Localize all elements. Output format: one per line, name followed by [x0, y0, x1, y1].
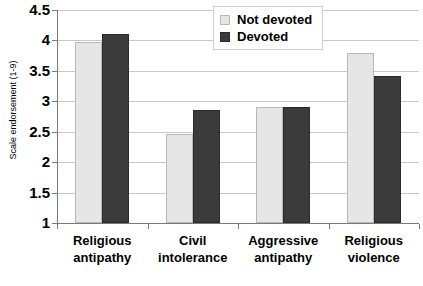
legend-item: Not devoted: [220, 11, 312, 28]
y-tick-label: 4.5: [8, 2, 50, 17]
x-tick-mark: [238, 224, 239, 229]
legend-label: Not devoted: [237, 12, 312, 27]
legend-label: Devoted: [237, 29, 288, 44]
legend-swatch-devoted-icon: [220, 32, 230, 42]
bar-devoted: [193, 110, 220, 223]
legend-item: Devoted: [220, 28, 312, 45]
x-tick-mark: [329, 224, 330, 229]
x-axis-category-label: Religiousviolence: [317, 232, 423, 266]
category-label-line: Religious: [317, 232, 423, 249]
legend: Not devoted Devoted: [213, 6, 323, 50]
y-tick-label: 4: [8, 32, 50, 47]
bar-not-devoted: [75, 42, 102, 223]
y-tick-label: 3: [8, 93, 50, 108]
y-tick-label: 1.5: [8, 185, 50, 200]
y-tick-label: 2: [8, 154, 50, 169]
bar-not-devoted: [256, 107, 283, 223]
category-label-line: violence: [317, 249, 423, 266]
bar-not-devoted: [347, 53, 374, 223]
bar-chart: Scale endorsement (1-9) 1 1.5 2 2.5 3 3.…: [0, 0, 423, 286]
x-tick-mark: [419, 224, 420, 229]
y-tick-label: 3.5: [8, 63, 50, 78]
y-tick-label: 1: [8, 215, 50, 230]
bar-not-devoted: [166, 134, 193, 223]
x-tick-mark: [148, 224, 149, 229]
x-tick-mark: [57, 224, 58, 229]
bar-devoted: [102, 34, 129, 223]
y-tick-label: 2.5: [8, 124, 50, 139]
bar-devoted: [283, 107, 310, 223]
bar-devoted: [374, 76, 401, 223]
legend-swatch-not-devoted-icon: [220, 15, 230, 25]
